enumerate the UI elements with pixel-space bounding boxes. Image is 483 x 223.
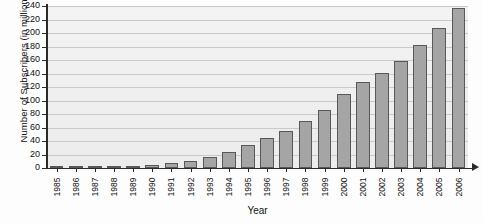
x-tick-mark (363, 168, 364, 172)
x-tick-label: 1991 (166, 178, 176, 197)
x-axis-tick (353, 168, 372, 173)
x-axis-arrow-icon (472, 163, 479, 171)
y-tick-mark (42, 87, 47, 88)
x-tick-label: 1990 (147, 178, 157, 197)
bar (337, 94, 351, 168)
bar-cell (104, 6, 123, 168)
x-tick-label: 2000 (339, 178, 349, 197)
x-label-cell: 1994 (219, 174, 238, 206)
y-tick-label: 200 (25, 27, 40, 38)
y-tick-label: 120 (25, 81, 40, 92)
bar (260, 138, 274, 168)
y-tick-mark (42, 155, 47, 156)
x-label-cell: 1995 (238, 174, 257, 206)
y-tick-label: 180 (25, 41, 40, 52)
x-axis-tick (315, 168, 334, 173)
bar (203, 157, 217, 168)
x-tick-label: 1994 (224, 178, 234, 197)
x-tick-mark (420, 168, 421, 172)
x-axis-tick (124, 168, 143, 173)
x-tick-mark (344, 168, 345, 172)
bar-cell (372, 6, 391, 168)
bar-cell (47, 6, 66, 168)
x-tick-label: 1999 (320, 178, 330, 197)
x-axis-tick (181, 168, 200, 173)
y-axis-tick: 120 (0, 87, 47, 88)
y-axis-tick: 80 (0, 114, 47, 115)
x-tick-mark (459, 168, 460, 172)
x-label-cell: 1992 (181, 174, 200, 206)
x-tick-mark (133, 168, 134, 172)
x-label-cell: 2000 (334, 174, 353, 206)
x-label-cell: 1986 (66, 174, 85, 206)
bar (279, 131, 293, 168)
y-tick-mark (42, 114, 47, 115)
x-label-cell: 2006 (449, 174, 468, 206)
y-tick-label: 160 (25, 54, 40, 65)
y-tick-mark (42, 74, 47, 75)
x-tick-mark (171, 168, 172, 172)
y-tick-mark (42, 20, 47, 21)
y-axis-tick: 20 (0, 155, 47, 156)
y-axis-tick: 180 (0, 47, 47, 48)
bar-cell (181, 6, 200, 168)
bar-cell (219, 6, 238, 168)
x-tick-mark (248, 168, 249, 172)
x-tick-mark (152, 168, 153, 172)
y-tick-mark (42, 128, 47, 129)
x-axis-tick (143, 168, 162, 173)
x-label-cell: 1991 (162, 174, 181, 206)
bar-cell (334, 6, 353, 168)
y-tick-label: 240 (25, 0, 40, 11)
x-tick-mark (305, 168, 306, 172)
bar-series (47, 6, 468, 168)
x-tick-mark (76, 168, 77, 172)
x-label-cell: 1998 (296, 174, 315, 206)
x-tick-label: 2001 (358, 178, 368, 197)
x-axis-title: Year (47, 205, 468, 216)
x-axis-tick (296, 168, 315, 173)
x-axis-tick (219, 168, 238, 173)
x-tick-mark (401, 168, 402, 172)
y-tick-label: 100 (25, 95, 40, 106)
x-axis-tick (392, 168, 411, 173)
x-label-cell: 1990 (143, 174, 162, 206)
x-label-cell: 1997 (277, 174, 296, 206)
bar (299, 121, 313, 168)
bar (375, 73, 389, 168)
bar-cell (296, 6, 315, 168)
bar-cell (66, 6, 85, 168)
x-label-cell: 2003 (392, 174, 411, 206)
y-tick-mark (42, 60, 47, 61)
x-label-cell: 1989 (124, 174, 143, 206)
bar-cell (258, 6, 277, 168)
x-axis-tick (47, 168, 66, 173)
bar-cell (85, 6, 104, 168)
x-axis-tick (430, 168, 449, 173)
y-axis-tick: 200 (0, 33, 47, 34)
y-tick-mark (42, 141, 47, 142)
x-axis-tick (258, 168, 277, 173)
bar (413, 45, 427, 168)
y-tick-label: 140 (25, 68, 40, 79)
x-axis-tick (85, 168, 104, 173)
x-axis-tick (277, 168, 296, 173)
bar-cell (143, 6, 162, 168)
x-label-cell: 2002 (372, 174, 391, 206)
x-tick-mark (439, 168, 440, 172)
x-tick-label: 2003 (396, 178, 406, 197)
bar-cell (411, 6, 430, 168)
bar-cell (277, 6, 296, 168)
x-axis-ticks (47, 168, 468, 173)
x-tick-label: 1992 (186, 178, 196, 197)
x-tick-mark (210, 168, 211, 172)
x-axis-tick (162, 168, 181, 173)
bar (432, 28, 446, 168)
x-axis-tick (238, 168, 257, 173)
bar (241, 145, 255, 168)
y-tick-mark (42, 101, 47, 102)
x-tick-mark (286, 168, 287, 172)
bar-cell (238, 6, 257, 168)
x-tick-label: 1997 (281, 178, 291, 197)
x-tick-mark (229, 168, 230, 172)
